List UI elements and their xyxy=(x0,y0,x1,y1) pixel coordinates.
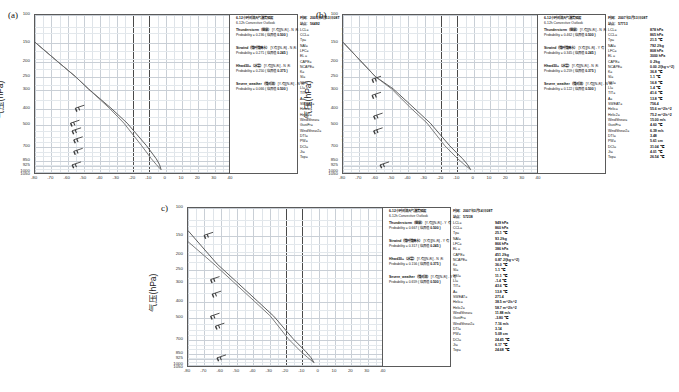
parameter-table-b: 时间： 2007年3月13日 08T站点： 57713LCL=878 hPaCC… xyxy=(608,16,679,160)
y-axis-tick-label: 100 xyxy=(2,12,30,16)
wind-barb-icon xyxy=(72,128,81,134)
x-axis-tick-label: -30 xyxy=(265,369,271,373)
x-axis-tick-label: -50 xyxy=(80,176,86,180)
x-axis-tick-label: 0 xyxy=(163,176,165,180)
y-axis-tick-label: 1050 xyxy=(2,172,30,176)
wind-barb-icon xyxy=(372,92,381,98)
param-value: 26.54 ℃ xyxy=(650,155,665,160)
y-axis-tick-label: 500 xyxy=(155,314,183,318)
wind-barb-icon xyxy=(215,323,224,329)
y-axis-tick-label: 300 xyxy=(310,87,338,91)
y-axis-tick-label: 150 xyxy=(310,39,338,43)
x-axis-tick-label: 0 xyxy=(471,176,473,180)
y-axis-tick-label: 250 xyxy=(310,74,338,78)
wind-barb-icon xyxy=(217,355,226,361)
y-axis-tick-label: 100 xyxy=(155,205,183,209)
y-axis-tick-label: 150 xyxy=(2,39,30,43)
sounding-curve xyxy=(35,42,161,169)
y-axis-tick-label: 300 xyxy=(2,87,30,91)
sounding-curve xyxy=(35,42,161,169)
param-time: 时间： 2007年3月14日 08T xyxy=(453,209,563,214)
x-axis-tick-label: 30 xyxy=(519,176,524,180)
x-axis-tick-label: 40 xyxy=(536,176,541,180)
y-axis-tick-label: 850 xyxy=(310,157,338,161)
wind-barb-icon xyxy=(212,291,221,297)
x-axis-tick-label: 20 xyxy=(348,369,353,373)
wind-barb-icon xyxy=(75,105,84,111)
param-row: Top=26.54 ℃ xyxy=(608,155,679,160)
x-axis-tick-label: 20 xyxy=(503,176,508,180)
x-axis-tick-label: 40 xyxy=(228,176,233,180)
param-time: 时间： 2007年3月13日 08T xyxy=(608,16,679,21)
x-axis-tick-label: -10 xyxy=(145,176,151,180)
x-axis-tick-label: -60 xyxy=(63,176,69,180)
sounding-panel-b: 气压(hPa) (b) 6-12小时对流天气潜势预报6-12h Convecti… xyxy=(308,4,615,196)
sounding-curve xyxy=(343,42,471,169)
param-value: 24.68 ℃ xyxy=(495,348,510,353)
wind-barb-icon xyxy=(74,137,83,143)
sounding-curve xyxy=(188,231,314,363)
x-axis-tick-label: -50 xyxy=(233,369,239,373)
param-station: 站点： 57238 xyxy=(453,215,563,220)
x-axis-tick-label: -20 xyxy=(437,176,443,180)
y-axis-tick-label: 300 xyxy=(155,280,183,284)
y-axis-tick-label: 700 xyxy=(2,144,30,148)
y-axis-tick-label: 1050 xyxy=(310,172,338,176)
y-axis-tick-label: 500 xyxy=(2,121,30,125)
sounding-curves xyxy=(343,15,537,173)
y-axis-tick-label: 400 xyxy=(155,299,183,303)
x-axis-tick-label: 10 xyxy=(487,176,492,180)
sounding-panel-a: 气压(hPa) (a) 6-12小时对流天气潜势预报6-12h Convecti… xyxy=(0,4,307,196)
wind-barb-icon xyxy=(204,232,213,238)
y-axis-tick-label: 250 xyxy=(2,74,30,78)
x-axis-tick-label: -60 xyxy=(216,369,222,373)
y-axis-tick-label: 700 xyxy=(155,337,183,341)
y-axis-tick-label: 200 xyxy=(2,59,30,63)
wind-barb-icon xyxy=(211,277,220,283)
x-axis-tick-label: -80 xyxy=(184,369,190,373)
sounding-curve xyxy=(343,42,471,169)
y-axis-tick-label: 1050 xyxy=(155,365,183,369)
param-row: Top=24.68 ℃ xyxy=(453,348,563,353)
x-axis-tick-label: 30 xyxy=(211,176,216,180)
x-axis-tick-label: 0 xyxy=(316,369,318,373)
plot-area-a xyxy=(34,14,230,174)
y-axis-tick-label: 100 xyxy=(310,12,338,16)
x-axis-tick-label: -10 xyxy=(453,176,459,180)
y-axis-tick-label: 200 xyxy=(155,252,183,256)
wind-barb-icon xyxy=(71,120,80,126)
wind-barb-icon xyxy=(211,313,220,319)
x-axis-tick-label: -50 xyxy=(388,176,394,180)
y-axis-tick-label: 500 xyxy=(310,121,338,125)
y-axis-tick-label: 150 xyxy=(155,232,183,236)
parameter-table-c: 时间： 2007年3月14日 08T站点： 57238LCL=949 hPaCC… xyxy=(453,209,563,353)
x-axis-tick-label: -20 xyxy=(129,176,135,180)
sounding-curves xyxy=(188,208,382,366)
x-axis-tick-label: -30 xyxy=(112,176,118,180)
y-axis-tick-label: 200 xyxy=(310,59,338,63)
x-axis-tick-label: 30 xyxy=(364,369,369,373)
x-axis-tick-label: 40 xyxy=(381,369,386,373)
x-axis-tick-label: -10 xyxy=(298,369,304,373)
x-axis-tick-label: -30 xyxy=(420,176,426,180)
x-axis-tick-label: -20 xyxy=(282,369,288,373)
x-axis-tick-label: -60 xyxy=(371,176,377,180)
x-axis-tick-label: -40 xyxy=(96,176,102,180)
param-key: Top= xyxy=(453,348,495,353)
x-axis-tick-label: -70 xyxy=(47,176,53,180)
wind-barb-icon xyxy=(374,113,383,119)
y-axis-tick-label: 400 xyxy=(310,106,338,110)
plot-area-b xyxy=(342,14,538,174)
x-axis-tick-label: 10 xyxy=(179,176,184,180)
plot-area-c xyxy=(187,207,383,367)
wind-barb-icon xyxy=(380,162,389,168)
wind-barb-icon xyxy=(374,128,383,134)
x-axis-tick-label: -80 xyxy=(339,176,345,180)
sounding-curves xyxy=(35,15,229,173)
wind-barb-icon xyxy=(74,148,83,154)
param-station: 站点： 57713 xyxy=(608,22,679,27)
x-axis-tick-label: -70 xyxy=(200,369,206,373)
param-key: Top= xyxy=(608,155,650,160)
y-axis-tick-label: 250 xyxy=(155,267,183,271)
y-axis-tick-label: 850 xyxy=(2,157,30,161)
